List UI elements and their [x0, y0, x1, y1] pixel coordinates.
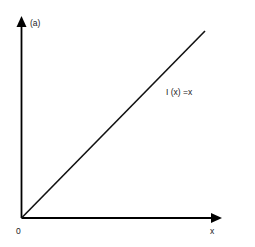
y-axis-arrow-icon — [17, 16, 27, 27]
x-axis-label: x — [210, 226, 215, 236]
linear-function-plot: (a) I (x) =x x 0 — [0, 0, 255, 247]
x-axis-arrow-icon — [211, 213, 222, 223]
identity-line — [22, 31, 206, 218]
panel-label: (a) — [30, 18, 41, 28]
equation-label: I (x) =x — [166, 87, 193, 97]
origin-label: 0 — [16, 226, 21, 236]
